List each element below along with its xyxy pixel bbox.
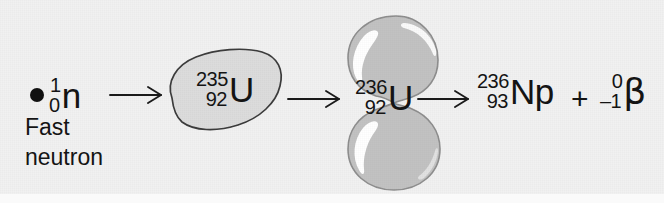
fast-neutron-caption: Fast neutron (25, 112, 103, 173)
neutron-particle-dot (30, 88, 44, 102)
fast-neutron-caption-line1: Fast (25, 112, 103, 142)
beta-greek-symbol: β (623, 74, 645, 110)
neutron-element-symbol: n (62, 78, 81, 113)
uranium-236-nuclide-symbol: 236 92 U (355, 78, 413, 117)
fast-neutron-caption-line2: neutron (25, 142, 103, 172)
beta-particle-symbol: 0 –1 β (600, 72, 646, 111)
arrow-neutron-to-u235 (110, 87, 161, 103)
neptunium-236-mass-number: 236 (477, 72, 509, 92)
beta-mass-number: 0 (600, 72, 622, 92)
neutron-mass-number: 1 (49, 76, 61, 96)
neptunium-236-charge-number: 93 (477, 92, 509, 112)
uranium-235-indices: 235 92 (196, 70, 228, 109)
neptunium-236-indices: 236 93 (477, 72, 509, 111)
uranium-235-nuclide-symbol: 235 92 U (196, 70, 254, 109)
uranium-236-charge-number: 92 (355, 98, 387, 118)
neptunium-236-nuclide-symbol: 236 93 Np (477, 72, 554, 111)
beta-indices: 0 –1 (600, 72, 622, 111)
arrow-u235-to-u236 (288, 91, 339, 107)
beta-charge-number: –1 (600, 92, 622, 112)
neutron-nuclide-symbol: 1 0 n (49, 76, 81, 115)
uranium-236-indices: 236 92 (355, 78, 387, 117)
arrow-u236-to-products (418, 91, 468, 107)
uranium-235-element-symbol: U (229, 72, 254, 107)
uranium-236-mass-number: 236 (355, 78, 387, 98)
plus-operator: + (571, 82, 589, 116)
uranium-235-charge-number: 92 (196, 90, 228, 110)
nuclear-reaction-diagram: 1 0 n Fast neutron 235 92 U 236 92 U 236… (0, 0, 664, 203)
neutron-indices: 1 0 (49, 76, 61, 115)
bottom-margin-strip (0, 194, 664, 203)
uranium-235-mass-number: 235 (196, 70, 228, 90)
uranium-236-element-symbol: U (388, 80, 413, 115)
neptunium-236-element-symbol: Np (510, 74, 554, 109)
